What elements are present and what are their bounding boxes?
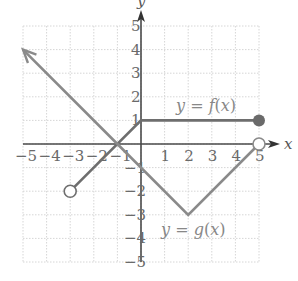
f-end-closed-circle-icon — [253, 114, 265, 126]
g-label: y = g(x) — [160, 220, 225, 239]
g-end-open-circle-icon — [253, 138, 265, 150]
x-tick-label: 1 — [161, 147, 171, 165]
y-tick-label: 3 — [131, 64, 141, 82]
axes: xy — [23, 0, 293, 262]
x-axis-label: x — [284, 135, 293, 153]
y-tick-label: −5 — [124, 253, 146, 271]
x-tick-label: 2 — [184, 147, 194, 165]
y-axis-label: y — [136, 0, 146, 10]
f-label: y = f(x) — [175, 96, 236, 115]
x-tick-label: −5 — [15, 147, 37, 165]
y-tick-label: −4 — [124, 229, 146, 247]
y-tick-label: −3 — [124, 206, 146, 224]
f-start-open-circle-icon — [64, 185, 76, 197]
y-tick-label: 2 — [131, 88, 141, 106]
function-graph: xy −5−4−3−2−11234554321−1−2−3−4−5 y = f(… — [0, 0, 298, 281]
x-tick-label: 3 — [208, 147, 218, 165]
y-tick-label: 4 — [131, 41, 141, 59]
y-tick-label: −2 — [124, 182, 146, 200]
y-tick-label: 5 — [131, 17, 141, 35]
x-tick-label: −3 — [62, 147, 84, 165]
x-tick-label: −4 — [39, 147, 61, 165]
